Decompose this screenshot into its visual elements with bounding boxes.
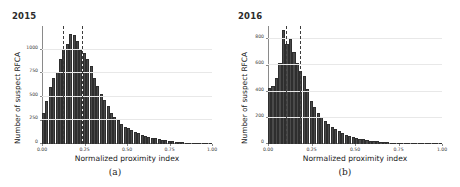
- reference-vline-1: [286, 26, 287, 144]
- y-tick: [40, 72, 42, 73]
- panel-b-x-axis-label: Normalized proximity index: [268, 154, 442, 163]
- panel-a-x-axis-label: Normalized proximity index: [42, 154, 212, 163]
- x-tick-label: 0.25: [306, 147, 316, 152]
- panel-a-subcaption: (a): [0, 167, 230, 177]
- panel-b-y-axis-label: Number of suspect RFCA: [240, 52, 249, 144]
- x-tick-label: 0.50: [122, 147, 132, 152]
- y-tick: [266, 117, 268, 118]
- x-tick-label: 0.00: [263, 147, 273, 152]
- x-tick-label: 0.50: [350, 147, 360, 152]
- panel-b-plot-area: 02004006008000.000.250.500.751.00: [268, 26, 442, 144]
- panel-b-subcaption: (b): [230, 167, 460, 177]
- x-tick-label: 1.00: [437, 147, 447, 152]
- gridline-y: [42, 96, 212, 97]
- panel-a-bars: [42, 26, 212, 144]
- reference-vline-1: [63, 26, 64, 144]
- reference-vline-2: [300, 26, 301, 144]
- y-tick-label: 200: [255, 112, 264, 117]
- y-tick: [40, 49, 42, 50]
- panel-a-plot-area: 025050075010000.000.250.500.751.00: [42, 26, 212, 144]
- y-tick-label: 250: [29, 115, 38, 120]
- panel-a-title: 2015: [12, 11, 36, 21]
- gridline-y: [42, 119, 212, 120]
- y-tick: [266, 38, 268, 39]
- y-tick-label: 750: [29, 68, 38, 73]
- y-tick-label: 600: [255, 60, 264, 65]
- figure-histograms-proximity-index: 2015 Number of suspect RFCA 025050075010…: [0, 0, 460, 187]
- y-tick: [40, 120, 42, 121]
- panel-a: 2015 Number of suspect RFCA 025050075010…: [0, 0, 230, 187]
- gridline-y: [268, 117, 442, 118]
- gridline-y: [42, 49, 212, 50]
- y-tick-label: 1000: [26, 44, 38, 49]
- y-tick: [266, 91, 268, 92]
- panel-b: 2016 Number of suspect RFCA 020040060080…: [230, 0, 460, 187]
- gridline-y: [42, 72, 212, 73]
- y-tick-label: 0: [35, 139, 38, 144]
- reference-vline-2: [82, 26, 83, 144]
- panel-b-title: 2016: [238, 11, 262, 21]
- x-tick-label: 0.75: [164, 147, 174, 152]
- y-tick-label: 400: [255, 86, 264, 91]
- gridline-y: [268, 91, 442, 92]
- y-tick: [266, 65, 268, 66]
- y-tick-label: 500: [29, 91, 38, 96]
- y-tick-label: 0: [261, 139, 264, 144]
- x-tick-label: 0.25: [79, 147, 89, 152]
- gridline-y: [268, 38, 442, 39]
- panel-b-bars: [268, 26, 442, 144]
- x-tick-label: 0.75: [393, 147, 403, 152]
- y-tick-label: 800: [255, 34, 264, 39]
- x-tick-label: 1.00: [207, 147, 217, 152]
- gridline-y: [268, 64, 442, 65]
- y-tick: [40, 96, 42, 97]
- panel-a-y-axis-label: Number of suspect RFCA: [13, 52, 22, 144]
- x-tick-label: 0.00: [37, 147, 47, 152]
